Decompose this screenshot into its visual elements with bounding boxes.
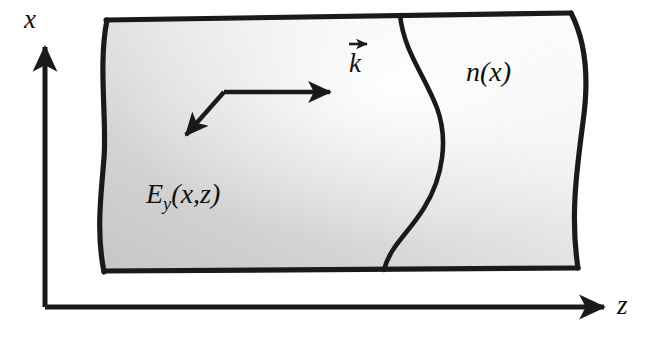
index-profile-label: n(x) <box>466 58 511 86</box>
x-axis-label: x <box>24 6 36 33</box>
field-label-base: E <box>146 178 163 209</box>
figure-canvas <box>0 0 648 344</box>
wavevector-stack: k <box>347 50 361 77</box>
field-label-arguments: (x,z) <box>171 178 220 209</box>
z-axis-label: z <box>617 292 628 319</box>
slab-bottom-edge <box>104 268 578 271</box>
field-label: Ey(x,z) <box>146 180 220 213</box>
waveguide-slab <box>100 13 586 272</box>
waveguide-figure: x z Ey(x,z) n(x) k <box>0 0 648 344</box>
wavevector-label: k <box>347 50 361 77</box>
slab-highlight <box>100 13 586 272</box>
wavevector-label-base: k <box>347 50 361 77</box>
